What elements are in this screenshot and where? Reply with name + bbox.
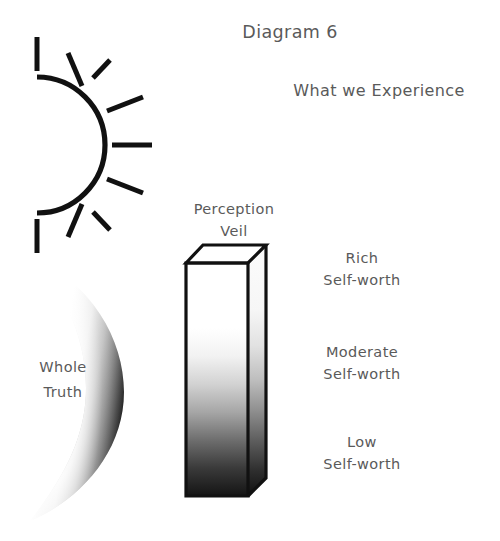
level-noun: Self-worth [323,366,400,382]
veil-prism-icon [186,245,266,496]
level-qualifier: Moderate [326,344,398,360]
veil-label-line1: Perception [194,201,275,217]
level-qualifier: Low [347,434,377,450]
experience-heading: What we Experience [293,81,465,100]
level-qualifier: Rich [346,250,379,266]
truth-label-line2: Truth [43,384,83,400]
level-noun: Self-worth [323,272,400,288]
veil-front-face [186,263,248,496]
page-title: Diagram 6 [242,22,337,42]
truth-label-line1: Whole [39,359,86,375]
diagram-canvas: Diagram 6 What we Experience Whole Truth… [0,0,500,541]
veil-right-face [248,245,266,496]
level-noun: Self-worth [323,456,400,472]
veil-label-line2: Veil [220,223,247,239]
